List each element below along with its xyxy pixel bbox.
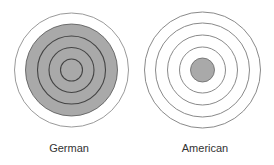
german-diagram — [15, 13, 129, 127]
german-shaded-disk — [26, 24, 118, 116]
american-shaded-disk — [191, 58, 215, 82]
american-diagram — [145, 12, 261, 128]
german-label: German — [29, 141, 109, 155]
american-label: American — [165, 141, 245, 155]
